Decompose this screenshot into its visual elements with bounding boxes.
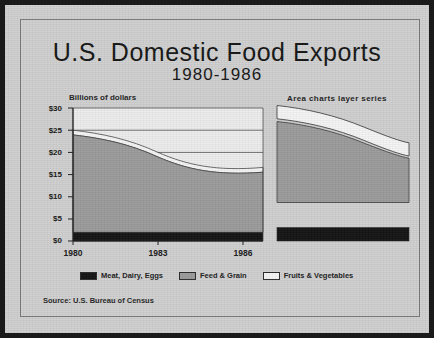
- legend-swatch-meat-dairy-eggs: [80, 272, 97, 280]
- legend-item-fruits-vegetables[interactable]: Fruits & Vegetables: [263, 271, 354, 280]
- source-note: Source: U.S. Bureau of Census: [43, 296, 154, 305]
- slide-canvas: U.S. Domestic Food Exports 1980-1986 Bil…: [0, 0, 434, 338]
- legend-swatch-feed-grain: [179, 272, 196, 280]
- area-feed-grain-right: [277, 122, 409, 203]
- legend-item-feed-grain[interactable]: Feed & Grain: [179, 271, 247, 280]
- legend-swatch-fruits-vegetables: [263, 272, 280, 280]
- charts-container: $30 $25 $20 $15 $10 $5 $0 1980 1983 1986: [5, 5, 434, 338]
- chart-legend: Meat, Dairy, Eggs Feed & Grain Fruits & …: [80, 271, 353, 280]
- legend-label-feed-grain: Feed & Grain: [200, 271, 247, 280]
- legend-item-meat-dairy-eggs[interactable]: Meat, Dairy, Eggs: [80, 271, 163, 280]
- area-meat-dairy-eggs-right: [277, 228, 409, 242]
- legend-label-meat-dairy-eggs: Meat, Dairy, Eggs: [101, 271, 163, 280]
- layered-area-panel: [5, 5, 434, 338]
- legend-label-fruits-vegetables: Fruits & Vegetables: [284, 271, 354, 280]
